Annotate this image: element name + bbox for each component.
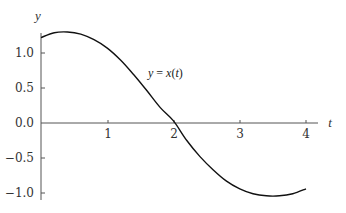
curve-x-of-t [41, 32, 306, 196]
y-tick-label: −0.5 [5, 151, 34, 165]
y-tick-label: 0.0 [15, 116, 34, 130]
x-axis-label: t [328, 115, 332, 130]
x-tick-label: 2 [170, 127, 178, 141]
y-tick-label: 1.0 [15, 46, 34, 60]
x-tick-label: 1 [104, 127, 112, 141]
chart: 1.0 0.5 0.0 −0.5 −1.0 1 2 3 4 y t y = x(… [0, 0, 346, 213]
y-tick-label: 0.5 [15, 81, 34, 95]
x-tick-label: 4 [302, 127, 310, 141]
x-tick-label: 3 [236, 127, 244, 141]
y-axis-label: y [33, 8, 41, 23]
y-tick-label: −1.0 [5, 186, 34, 200]
curve-label: y = x(t) [147, 66, 183, 80]
